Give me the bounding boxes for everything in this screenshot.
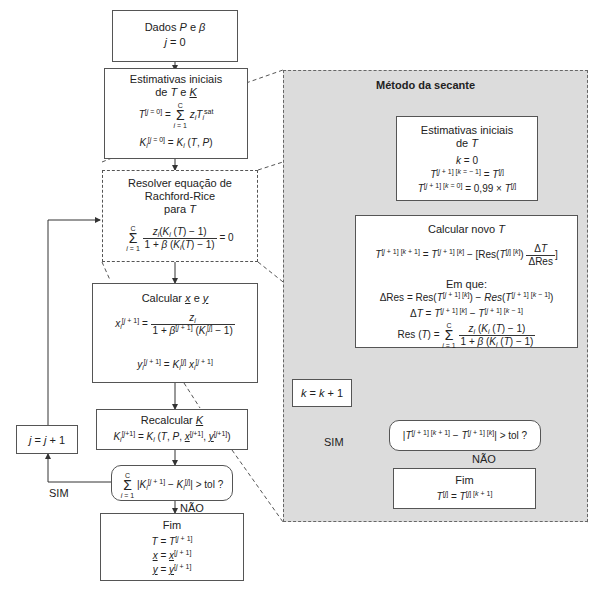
end-eq-y: y = y[j + 1] xyxy=(101,564,243,576)
left-yes-label: SIM xyxy=(49,487,69,499)
rr-equation: CΣi = 1 zi(Ki (T) − 1)1 + β (Ki(T) − 1) … xyxy=(103,225,257,252)
calculate-new-t-box: Calcular novo T T[j + 1] [k + 1] = T[j +… xyxy=(355,215,578,348)
j-increment-box: j = j + 1 xyxy=(16,425,78,454)
delta-t-equation: ΔT = T[j + 1] [k] − T[j + 1] [k − 1] xyxy=(356,308,577,320)
calculate-xy-box: Calcular x e y xi[j + 1] = zi1 + β[j + 1… xyxy=(92,283,258,383)
end-box: Fim T = T[j + 1] x = x[j + 1] y = y[j + … xyxy=(100,513,244,581)
secant-end-box: Fim T[j] = T[j] [k + 1] xyxy=(393,468,536,509)
x-equation: xi[j + 1] = zi1 + β[j + 1] (Ki[j] − 1) xyxy=(93,312,257,337)
recalc-k-title: Recalcular K xyxy=(97,414,247,427)
secant-yes-label: SIM xyxy=(324,436,344,448)
y-equation: yi[j + 1] = Ki[j] xi[j + 1] xyxy=(93,359,257,371)
rr-title2: Rachford-Rice xyxy=(103,190,257,203)
secant-no-label: NÃO xyxy=(472,453,496,465)
k-increment-box: k = k + 1 xyxy=(292,379,352,407)
initial-estimates-title2: de T e K xyxy=(105,86,247,99)
k-convergence-text: CΣi = 1 |Ki[j + 1] − Ki[j]| > tol ? xyxy=(112,472,232,499)
k-convergence-check: CΣi = 1 |Ki[j + 1] − Ki[j]| > tol ? xyxy=(111,465,233,501)
t-convergence-text: |T[j + 1] [k + 1] − T[j + 1] [k]| > tol … xyxy=(390,430,540,442)
initial-estimates-title1: Estimativas iniciais xyxy=(105,73,247,86)
secant-t-k0: T[j + 1] [k = 0] = 0,99 × T[j] xyxy=(397,183,537,195)
end-title: Fim xyxy=(101,519,243,532)
end-eq-x: x = x[j + 1] xyxy=(101,550,243,562)
secant-end-title: Fim xyxy=(394,474,535,487)
start-line1: Dados P e β xyxy=(113,21,237,34)
new-t-equation: T[j + 1] [k + 1] = T[j + 1] [k] − [Res(T… xyxy=(356,243,577,268)
recalculate-k-box: Recalcular K Ki[j+1] = Ki (T, P, x[j+1],… xyxy=(96,409,248,450)
calc-xy-title: Calcular x e y xyxy=(93,292,257,305)
rachford-rice-box: Resolver equação de Rachford-Rice para T… xyxy=(102,170,258,262)
recalc-k-equation: Ki[j+1] = Ki (T, P, x[j+1], y[j+1]) xyxy=(97,431,247,443)
secant-initial-estimates-box: Estimativas iniciais de T k = 0 T[j + 1]… xyxy=(396,116,538,201)
initial-estimates-box: Estimativas iniciais de T e K T[j = 0] =… xyxy=(104,68,248,159)
start-line2: j = 0 xyxy=(113,36,237,49)
k-increment-text: k = k + 1 xyxy=(293,387,351,400)
where-label: Em que: xyxy=(356,278,577,291)
secant-t-km1: T[j + 1] [k = − 1] = T[j] xyxy=(397,169,537,181)
res-equation: Res (T) = CΣi = 1 zi (Ki (T) − 1)1 + β (… xyxy=(356,322,577,349)
secant-init-title2: de T xyxy=(397,137,537,150)
t-convergence-check: |T[j + 1] [k + 1] − T[j + 1] [k]| > tol … xyxy=(389,420,541,451)
secant-panel-title: Método da secante xyxy=(376,79,475,91)
initial-t-equation: T[j = 0] = CΣi = 1 ziTisat xyxy=(105,102,247,129)
secant-end-equation: T[j] = T[j] [k + 1] xyxy=(394,491,535,503)
secant-init-title1: Estimativas iniciais xyxy=(397,124,537,137)
rr-title1: Resolver equação de xyxy=(103,177,257,190)
initial-k-equation: Ki[j = 0] = Ki (T, P) xyxy=(105,137,247,149)
secant-k0: k = 0 xyxy=(397,155,537,167)
j-increment-text: j = j + 1 xyxy=(17,434,77,447)
calc-new-t-title: Calcular novo T xyxy=(356,223,577,236)
rr-title3: para T xyxy=(103,203,257,216)
start-box: Dados P e β j = 0 xyxy=(112,10,238,62)
end-eq-t: T = T[j + 1] xyxy=(101,536,243,548)
delta-res-equation: ΔRes = Res(T[j + 1] [k]) − Res(T[j + 1] … xyxy=(356,292,577,304)
